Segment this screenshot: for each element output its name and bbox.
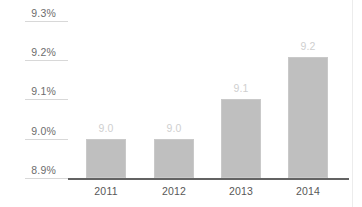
y-axis-gridline [25,139,68,140]
x-axis-label-2014: 2014 [278,185,338,197]
bar-chart: 9.3% 9.2% 9.1% 9.0% 8.9% 9.0 [0,0,362,207]
bar-2013[interactable] [221,99,261,178]
bar-2011[interactable] [86,139,126,178]
y-axis-gridline [25,21,68,22]
y-axis-gridline [25,99,68,100]
y-axis-tick-label: 8.9% [31,164,56,176]
y-axis-tick-label: 9.0% [31,125,56,137]
plot-right-border [352,0,353,207]
x-axis-baseline [68,178,349,180]
bar-2014[interactable] [288,57,328,178]
y-axis-tick-label: 9.3% [31,7,56,19]
bar-value-label: 9.2 [288,40,328,52]
plot-area: 9.0 9.0 9.1 9.2 2011 2012 2013 2014 [68,0,352,207]
bar-value-label: 9.1 [221,82,261,94]
bar-value-label: 9.0 [86,122,126,134]
y-axis-tick-label: 9.2% [31,46,56,58]
y-axis-gridline [25,60,68,61]
x-axis-label-2013: 2013 [211,185,271,197]
bar-value-label: 9.0 [154,122,194,134]
bar-2012[interactable] [154,139,194,178]
y-axis-gridline [25,178,68,179]
y-axis: 9.3% 9.2% 9.1% 9.0% 8.9% [0,0,70,207]
x-axis-label-2012: 2012 [144,185,204,197]
x-axis-label-2011: 2011 [76,185,136,197]
y-axis-tick-label: 9.1% [31,85,56,97]
